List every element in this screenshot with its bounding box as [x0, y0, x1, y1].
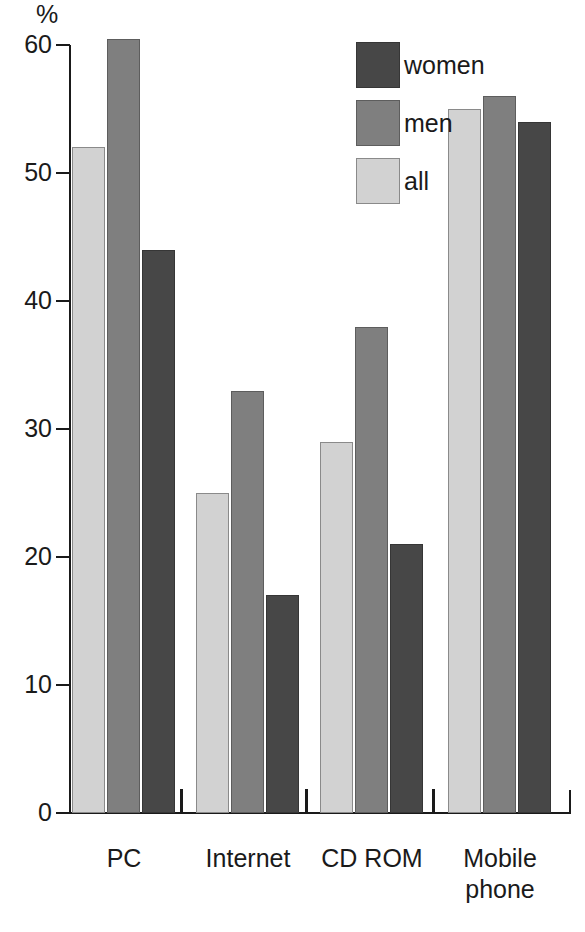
legend-swatch-men	[356, 100, 400, 146]
bar-all	[320, 442, 353, 813]
plot-area	[70, 45, 570, 813]
y-axis-tick	[56, 44, 70, 46]
bar-women	[518, 122, 551, 813]
legend-label: women	[404, 51, 485, 79]
bar-men	[355, 327, 388, 813]
bar-men	[483, 96, 516, 813]
y-axis-tick-label: 50	[0, 160, 52, 185]
bar-all	[448, 109, 481, 813]
bar-women	[390, 544, 423, 813]
bar-women	[266, 595, 299, 813]
legend-swatch-women	[356, 42, 400, 88]
y-axis-tick	[56, 556, 70, 558]
legend-label: men	[404, 109, 453, 137]
y-axis-tick	[56, 428, 70, 430]
y-axis-tick-label: 30	[0, 416, 52, 441]
bar-chart: % 0102030405060 PCInternetCD ROMMobile p…	[0, 0, 585, 932]
y-axis-tick	[56, 300, 70, 302]
bar-all	[72, 147, 105, 813]
y-axis-unit-label: %	[36, 2, 58, 27]
bar-men	[107, 39, 140, 813]
x-axis-category-label: Mobile phone	[410, 843, 585, 905]
legend-swatch-all	[356, 158, 400, 204]
y-axis-tick-label: 10	[0, 672, 52, 697]
bar-all	[196, 493, 229, 813]
y-axis-tick	[56, 172, 70, 174]
bar-women	[142, 250, 175, 813]
y-axis-tick	[56, 684, 70, 686]
y-axis-tick-label: 40	[0, 288, 52, 313]
bar-men	[231, 391, 264, 813]
legend-label: all	[404, 167, 429, 195]
y-axis-tick-label: 20	[0, 544, 52, 569]
y-axis-tick	[56, 812, 70, 814]
y-axis-tick-label: 0	[0, 800, 52, 825]
y-axis-tick-label: 60	[0, 32, 52, 57]
